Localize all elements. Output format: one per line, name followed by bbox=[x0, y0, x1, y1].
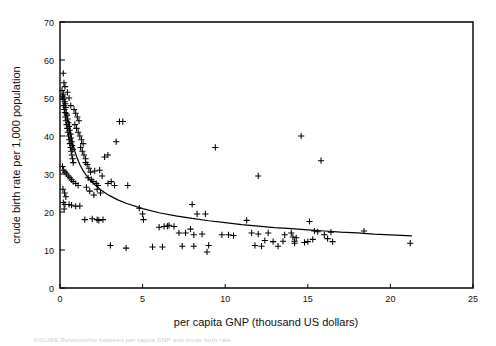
x-tick-label: 5 bbox=[140, 294, 145, 304]
y-tick-label: 60 bbox=[44, 56, 54, 66]
x-tick-label: 25 bbox=[468, 294, 478, 304]
x-tick-label: 15 bbox=[303, 294, 313, 304]
y-tick-label: 40 bbox=[44, 132, 54, 142]
x-tick-label: 10 bbox=[220, 294, 230, 304]
scatter-plot: 0510152025 010203040506070 per capita GN… bbox=[0, 0, 496, 346]
figure-container: 0510152025 010203040506070 per capita GN… bbox=[0, 0, 496, 346]
figure-caption-faint: FIGURE Relationship between per capita G… bbox=[34, 336, 284, 344]
y-axis-title: crude birth rate per 1,000 population bbox=[10, 66, 22, 243]
y-tick-label: 0 bbox=[49, 284, 54, 294]
y-tick-label: 70 bbox=[44, 18, 54, 28]
y-tick-label: 20 bbox=[44, 208, 54, 218]
x-axis-title: per capita GNP (thousand US dollars) bbox=[174, 316, 358, 328]
y-tick-label: 50 bbox=[44, 94, 54, 104]
x-tick-label: 20 bbox=[385, 294, 395, 304]
y-tick-label: 30 bbox=[44, 170, 54, 180]
plot-background bbox=[0, 0, 496, 346]
x-tick-label: 0 bbox=[57, 294, 62, 304]
y-tick-label: 10 bbox=[44, 246, 54, 256]
